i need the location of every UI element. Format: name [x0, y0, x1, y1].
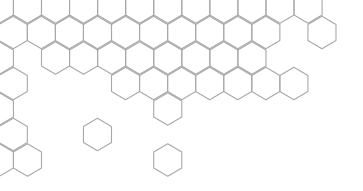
- hexagon-cell: [98, 0, 126, 23]
- hexagon-cell: [294, 0, 322, 23]
- hexagon-cell: [238, 0, 266, 23]
- hexagon-cell: [182, 0, 210, 23]
- hexagon-cell: [83, 118, 111, 150]
- hexagon-cell: [0, 93, 13, 125]
- hexagon-cell: [13, 0, 41, 23]
- hexagon-cell: [70, 0, 98, 23]
- hexagon-cell: [0, 42, 13, 74]
- hexagon-cell: [280, 67, 308, 99]
- hexagon-cell: [210, 0, 238, 23]
- hexagon-grid: [0, 0, 336, 176]
- hexagon-pattern-canvas: [0, 0, 363, 191]
- hexagon-cell: [41, 0, 69, 23]
- hexagon-cell: [126, 0, 154, 23]
- hexagon-cell: [154, 0, 182, 23]
- hexagon-cell: [266, 0, 294, 23]
- hexagon-cell: [0, 144, 13, 176]
- hexagon-cell: [154, 144, 182, 176]
- hexagon-cell: [0, 67, 27, 99]
